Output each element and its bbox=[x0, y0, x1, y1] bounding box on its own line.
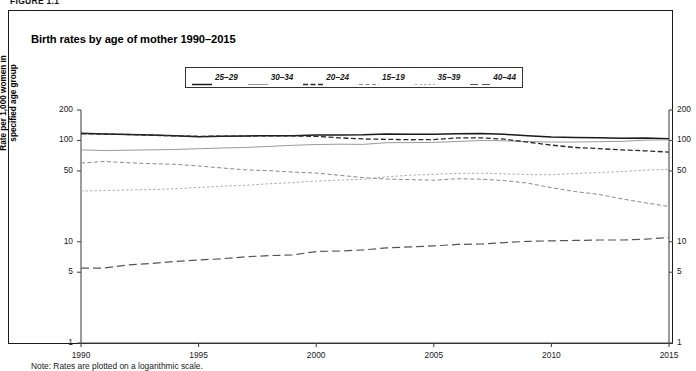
series-line-15-19 bbox=[81, 161, 669, 206]
chart-title: Birth rates by age of mother 1990–2015 bbox=[31, 33, 236, 45]
legend-item-30-34: 30–34 bbox=[248, 73, 294, 82]
legend-label: 15–19 bbox=[382, 73, 405, 82]
axis-frame bbox=[81, 110, 669, 343]
y-tick-label: 1 bbox=[39, 337, 73, 347]
y-tick-label-right: 200 bbox=[677, 104, 696, 114]
legend-item-35-39: 35–39 bbox=[415, 73, 461, 82]
legend-swatch-icon bbox=[359, 74, 379, 81]
legend-label: 40–44 bbox=[493, 73, 516, 82]
series-line-30-34 bbox=[81, 140, 669, 151]
y-axis-label: Rate per 1,000 women in specified age gr… bbox=[0, 43, 20, 163]
figure-note: Note: Rates are plotted on a logarithmic… bbox=[31, 361, 203, 371]
figure-number: FIGURE 1.1 bbox=[10, 0, 59, 6]
x-tick-label: 2000 bbox=[307, 350, 326, 360]
legend-swatch-icon bbox=[303, 74, 323, 81]
x-tick-label: 2005 bbox=[424, 350, 443, 360]
y-tick-label: 100 bbox=[39, 134, 73, 144]
series-line-40-44 bbox=[81, 238, 669, 268]
legend-label: 30–34 bbox=[271, 73, 294, 82]
x-tick-label: 2010 bbox=[542, 350, 561, 360]
legend-swatch-icon bbox=[248, 74, 268, 81]
y-tick-label: 5 bbox=[39, 266, 73, 276]
y-tick-label: 200 bbox=[39, 104, 73, 114]
legend-item-40-44: 40–44 bbox=[470, 73, 516, 82]
legend-swatch-icon bbox=[415, 74, 435, 81]
line-chart-svg bbox=[81, 110, 669, 343]
figure-panel: Birth rates by age of mother 1990–2015 2… bbox=[8, 10, 673, 344]
series-line-25-29 bbox=[81, 133, 669, 139]
chart-legend: 25–2930–3420–2415–1935–3940–44 bbox=[185, 67, 523, 88]
y-tick-label-right: 50 bbox=[677, 165, 696, 175]
x-tick-label: 1995 bbox=[189, 350, 208, 360]
legend-swatch-icon bbox=[470, 74, 490, 81]
y-tick-label-right: 10 bbox=[677, 236, 696, 246]
y-tick-label: 10 bbox=[39, 236, 73, 246]
plot-area: 2002001001005050101055111990199520002005… bbox=[81, 110, 669, 343]
legend-swatch-icon bbox=[192, 74, 212, 81]
x-tick-label: 2015 bbox=[660, 350, 679, 360]
y-tick-label-right: 5 bbox=[677, 266, 696, 276]
legend-item-25-29: 25–29 bbox=[192, 73, 238, 82]
y-tick-label-right: 1 bbox=[677, 337, 696, 347]
legend-item-20-24: 20–24 bbox=[303, 73, 349, 82]
y-tick-label: 50 bbox=[39, 165, 73, 175]
legend-label: 35–39 bbox=[438, 73, 461, 82]
series-line-35-39 bbox=[81, 169, 669, 191]
legend-label: 25–29 bbox=[215, 73, 238, 82]
legend-label: 20–24 bbox=[326, 73, 349, 82]
legend-item-15-19: 15–19 bbox=[359, 73, 405, 82]
x-tick-label: 1990 bbox=[72, 350, 91, 360]
y-tick-label-right: 100 bbox=[677, 134, 696, 144]
